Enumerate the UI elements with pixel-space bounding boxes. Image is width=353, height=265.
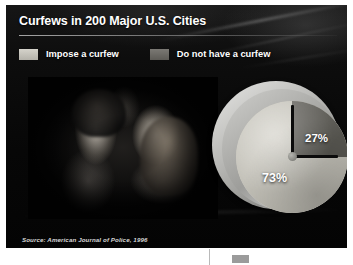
pie-value-label-no-curfew: 27%: [305, 132, 328, 144]
pie-chart-watch: 27% 73%: [206, 77, 347, 217]
title-underline-rule: [19, 35, 337, 36]
pie-value-label-impose: 73%: [262, 171, 287, 185]
legend-item-no-curfew: Do not have a curfew: [150, 46, 271, 62]
legend-item-impose-curfew: Impose a curfew: [19, 46, 119, 62]
watch-case-outer: 27% 73%: [212, 81, 340, 209]
photo-vignette: [28, 77, 218, 219]
legend-label-impose: Impose a curfew: [46, 49, 119, 59]
next-slide-divider: [209, 249, 210, 265]
clock-minute-hand-icon: [291, 105, 294, 157]
clock-hour-hand-icon: [292, 155, 338, 158]
legend-label-no-curfew: Do not have a curfew: [177, 49, 271, 59]
watch-dial: 27% 73%: [236, 101, 347, 213]
slide-frame: Curfews in 200 Major U.S. Cities Impose …: [0, 0, 353, 265]
next-slide-swatch: [232, 255, 249, 263]
legend-swatch-impose-icon: [19, 49, 38, 60]
photo-teens-in-car: [28, 77, 218, 219]
slide-title: Curfews in 200 Major U.S. Cities: [19, 14, 206, 28]
clock-center-cap-icon: [288, 152, 297, 161]
slide-canvas: Curfews in 200 Major U.S. Cities Impose …: [6, 5, 347, 248]
chart-legend: Impose a curfew Do not have a curfew: [19, 46, 270, 62]
legend-swatch-no-curfew-icon: [150, 49, 169, 60]
source-citation: Source: American Journal of Police, 1996: [22, 236, 148, 243]
watch-case-ring: 27% 73%: [222, 89, 342, 209]
